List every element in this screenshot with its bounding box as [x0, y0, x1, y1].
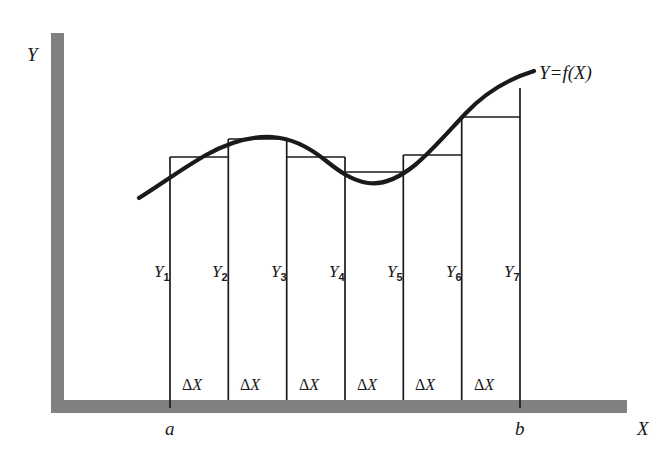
delta-var-1: X — [192, 376, 202, 393]
lower-bound-label: a — [165, 419, 175, 438]
curve-equation-label: Y=f(X) — [539, 63, 592, 82]
y-axis-label: Y — [27, 45, 38, 64]
width-label-2: ΔX — [240, 377, 260, 393]
width-label-3: ΔX — [299, 377, 319, 393]
width-label-6: ΔX — [474, 377, 494, 393]
delta-symbol-6: Δ — [474, 376, 484, 393]
function-curve — [139, 71, 534, 198]
ordinate-label-4: Y4 — [329, 263, 345, 283]
width-label-1: ΔX — [182, 377, 202, 393]
delta-var-3: X — [309, 376, 319, 393]
delta-var-4: X — [367, 376, 377, 393]
ordinate-label-2: Y2 — [212, 263, 228, 283]
ordinate-label-3-index: 3 — [280, 271, 286, 283]
ordinate-label-2-index: 2 — [221, 271, 227, 283]
delta-symbol-5: Δ — [415, 376, 425, 393]
ordinate-label-7: Y7 — [504, 263, 520, 283]
delta-var-6: X — [484, 376, 494, 393]
ordinate-label-7-index: 7 — [513, 271, 519, 283]
x-axis-label: X — [637, 419, 649, 438]
ordinate-label-4-index: 4 — [338, 271, 344, 283]
delta-symbol-2: Δ — [240, 376, 250, 393]
ordinate-label-6-index: 6 — [455, 271, 461, 283]
ordinate-lines — [170, 88, 520, 408]
ordinate-label-1-index: 1 — [163, 271, 169, 283]
curve-equation-text: Y=f(X) — [539, 62, 592, 83]
width-label-4: ΔX — [357, 377, 377, 393]
x-axis-bar — [51, 400, 627, 413]
ordinate-label-5: Y5 — [387, 263, 403, 283]
delta-var-2: X — [250, 376, 260, 393]
ordinate-label-3: Y3 — [271, 263, 287, 283]
upper-bound-label: b — [515, 419, 525, 438]
width-label-5: ΔX — [415, 377, 435, 393]
ordinate-label-6: Y6 — [446, 263, 462, 283]
y-axis-bar — [51, 33, 64, 413]
delta-symbol-4: Δ — [357, 376, 367, 393]
figure-canvas: Y X Y=f(X) Y1 Y2 Y3 Y4 Y5 Y6 Y7 ΔX ΔX ΔX… — [0, 0, 662, 469]
ordinate-label-1: Y1 — [154, 263, 170, 283]
ordinate-label-5-index: 5 — [396, 271, 402, 283]
delta-symbol-1: Δ — [182, 376, 192, 393]
delta-var-5: X — [425, 376, 435, 393]
delta-symbol-3: Δ — [299, 376, 309, 393]
